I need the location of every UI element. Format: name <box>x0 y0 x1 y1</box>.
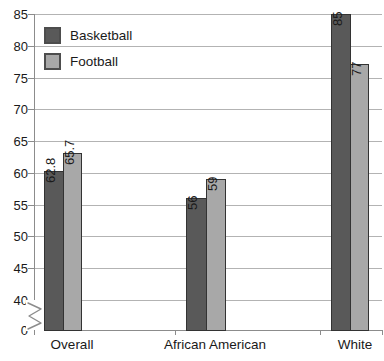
xtick-mark-african-american-end <box>320 330 321 335</box>
ytick-label-50: 50 <box>0 229 28 244</box>
ytick-label-85: 85 <box>0 7 28 22</box>
gridline-70 <box>35 109 382 110</box>
bar-value-basketball-overall: 62.8 <box>43 158 58 183</box>
bar-football-african-american <box>206 179 226 331</box>
legend-label-basketball: Basketball <box>70 28 132 43</box>
ytick-label-45: 45 <box>0 261 28 276</box>
y-axis-line <box>34 14 35 330</box>
legend: Basketball Football <box>44 22 132 74</box>
ytick-label-60: 60 <box>0 166 28 181</box>
bar-basketball-white <box>331 14 351 331</box>
xtick-mark-right-edge <box>382 330 383 335</box>
legend-swatch-basketball <box>44 27 61 44</box>
gridline-60 <box>35 173 382 174</box>
ytick-label-0: 0 <box>0 323 28 338</box>
gridline-65 <box>35 141 382 142</box>
ytick-label-80: 80 <box>0 39 28 54</box>
bar-basketball-african-american <box>186 198 207 331</box>
bar-chart: 85 80 75 70 65 60 55 50 45 40 0 62.8 65.… <box>0 0 384 361</box>
xtick-mark-left-edge <box>34 330 35 335</box>
ytick-label-40: 40 <box>0 293 28 308</box>
bar-value-basketball-african-american: 56 <box>185 196 200 210</box>
legend-item-football: Football <box>44 48 132 74</box>
ytick-label-65: 65 <box>0 134 28 149</box>
ytick-label-70: 70 <box>0 102 28 117</box>
bar-value-football-white: 77 <box>349 62 364 76</box>
bar-football-overall <box>63 153 82 331</box>
xtick-label-african-american: African American <box>164 337 266 352</box>
xtick-label-overall: Overall <box>51 337 94 352</box>
bar-value-football-overall: 65.7 <box>62 140 77 165</box>
legend-label-football: Football <box>70 54 118 69</box>
ytick-label-55: 55 <box>0 198 28 213</box>
legend-item-basketball: Basketball <box>44 22 132 48</box>
xtick-label-white: White <box>338 337 373 352</box>
legend-swatch-football <box>44 53 61 70</box>
axis-break-icon <box>26 300 44 331</box>
bar-value-football-african-american: 59 <box>205 177 220 191</box>
ytick-label-75: 75 <box>0 71 28 86</box>
gridline-75 <box>35 78 382 79</box>
bar-basketball-overall <box>44 171 64 331</box>
bar-value-basketball-white: 85 <box>330 12 345 26</box>
xtick-mark-overall-end <box>175 330 176 335</box>
bar-football-white <box>350 64 369 331</box>
